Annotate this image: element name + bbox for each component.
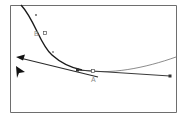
curve-extension[interactable] — [82, 57, 176, 72]
handle-point-right[interactable] — [169, 75, 172, 78]
diagram-canvas: B A — [0, 0, 190, 129]
handle-point-left[interactable] — [76, 69, 79, 72]
point-a-label: A — [91, 76, 96, 83]
anchor-point-a[interactable] — [92, 70, 95, 73]
arrow-head-icon — [16, 55, 25, 61]
curve-control-dot[interactable] — [52, 51, 54, 53]
bezier-diagram: B A — [0, 0, 190, 129]
point-b-label: B — [34, 30, 39, 37]
drawing-frame — [11, 6, 177, 113]
cursor-pointer-icon — [16, 66, 25, 78]
anchor-point-b[interactable] — [44, 32, 47, 35]
curve-control-dot[interactable] — [35, 14, 37, 16]
